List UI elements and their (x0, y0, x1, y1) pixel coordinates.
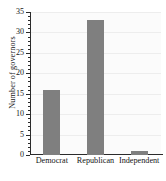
x-tick-label-independent: Independent (117, 157, 161, 165)
y-tick-label-35: 35 (16, 8, 24, 16)
y-tick-0 (26, 155, 30, 156)
y-tick-label-5: 5 (20, 131, 24, 139)
y-tick-label-0: 0 (20, 151, 24, 159)
x-tick-label-democrat: Democrat (30, 157, 74, 165)
y-tick-label-25: 25 (16, 49, 24, 57)
y-tick-label-10: 10 (16, 110, 24, 118)
y-tick-label-15: 15 (16, 90, 24, 98)
y-tick-label-20: 20 (16, 69, 24, 77)
bar-chart-figure: Number of governors 05101520253035 Democ… (0, 0, 166, 181)
x-tick-label-republican: Republican (74, 157, 118, 165)
y-tick-label-30: 30 (16, 28, 24, 36)
bar-independent (131, 151, 148, 155)
bar-series (30, 12, 161, 155)
bar-democrat (43, 90, 60, 155)
bar-republican (87, 20, 104, 155)
